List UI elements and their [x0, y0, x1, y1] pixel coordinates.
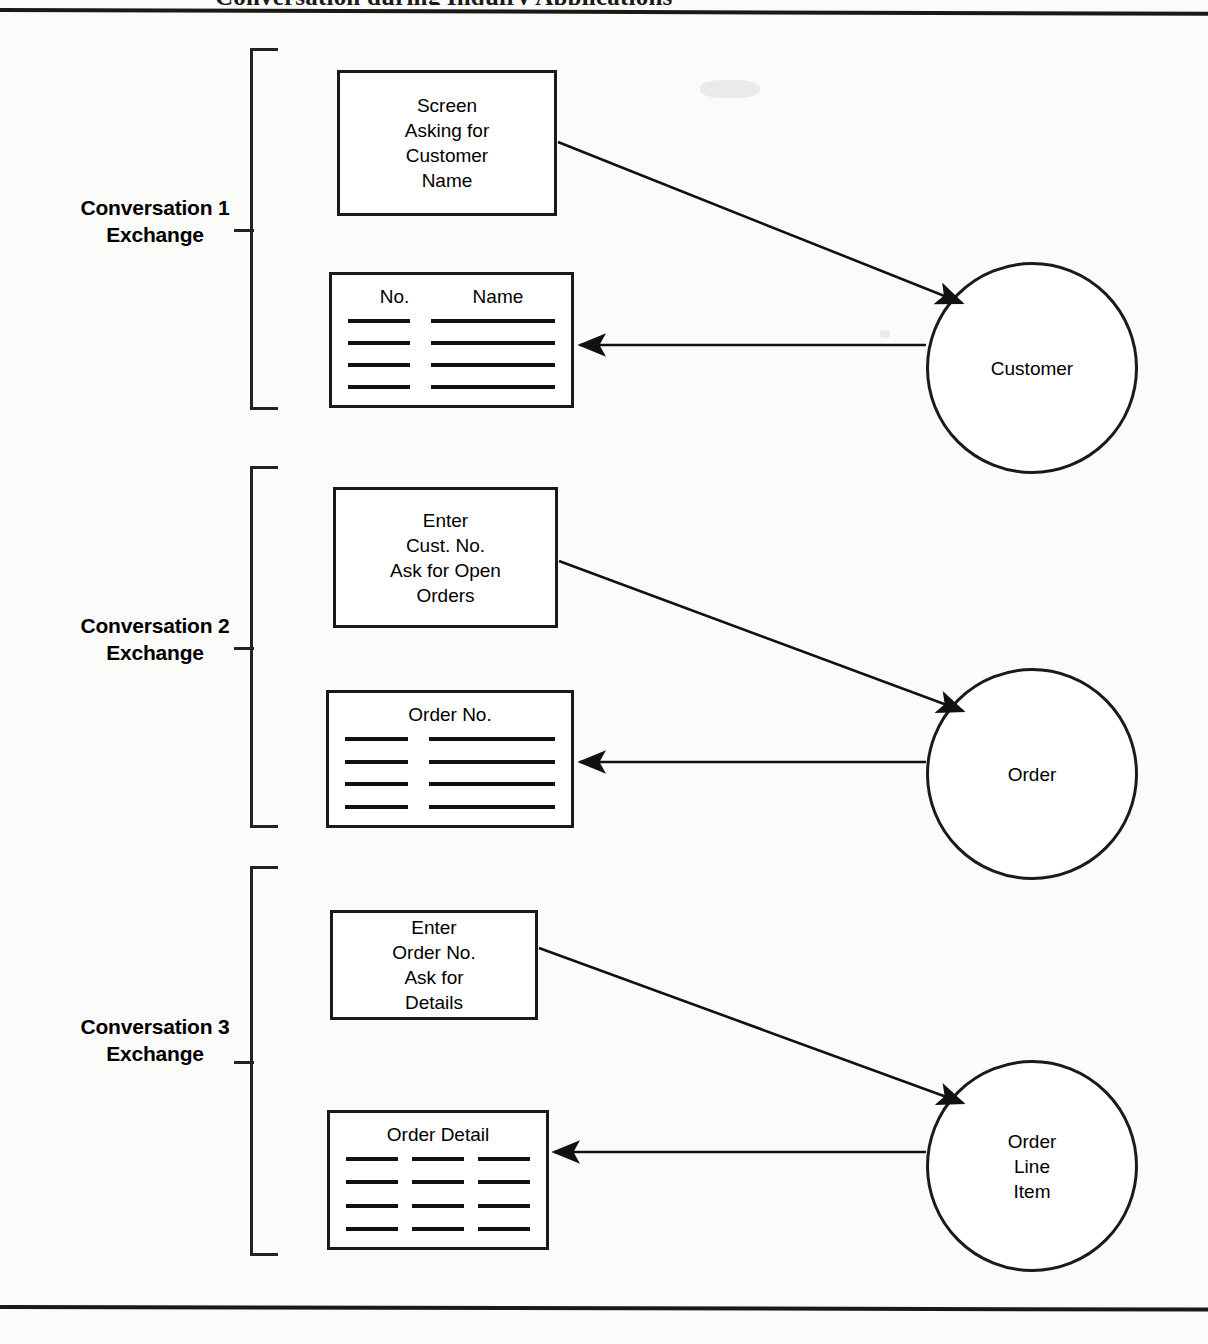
report-header-cell: Name — [473, 285, 524, 309]
report-header-cell: Order No. — [408, 703, 491, 727]
report-rows — [348, 319, 555, 393]
page-header-title: Conversation during Inquiry Applications — [215, 0, 1015, 5]
report-cell-rule — [345, 760, 408, 764]
scan-speckle — [700, 80, 760, 98]
report-cell-rule — [348, 363, 410, 367]
process-box-enter-order-no[interactable]: Enter Order No. Ask for Details — [330, 910, 538, 1020]
report-row — [346, 1157, 530, 1161]
report-box-order-no[interactable]: Order No. — [326, 690, 574, 828]
report-cell-rule — [346, 1180, 398, 1184]
report-cell-rule — [478, 1227, 530, 1231]
report-row — [348, 385, 555, 389]
report-cell-rule — [348, 319, 410, 323]
scan-speckle — [880, 330, 890, 338]
report-headers: No. Name — [348, 285, 555, 309]
report-cell-rule — [429, 760, 555, 764]
report-cell-rule — [346, 1157, 398, 1161]
group-label-line-2: Exchange — [45, 1040, 265, 1067]
report-box-customer-list[interactable]: No. Name — [329, 272, 574, 408]
report-row — [348, 319, 555, 323]
entity-circle-order[interactable]: Order — [926, 668, 1138, 880]
entity-label: Order Line Item — [1008, 1129, 1057, 1204]
report-cell-rule — [412, 1180, 464, 1184]
group-label-line-1: Conversation 3 — [45, 1013, 265, 1040]
report-cell-rule — [429, 805, 555, 809]
report-row — [345, 805, 555, 809]
report-cell-rule — [431, 319, 555, 323]
report-headers: Order No. — [345, 703, 555, 727]
report-cell-rule — [345, 782, 408, 786]
report-rows — [346, 1157, 530, 1235]
entity-circle-order-line-item[interactable]: Order Line Item — [926, 1060, 1138, 1272]
top-horizontal-rule — [0, 8, 1208, 16]
group-label-conversation-2: Conversation 2 Exchange — [45, 612, 265, 666]
report-header-cell: Order Detail — [387, 1123, 489, 1147]
report-cell-rule — [348, 385, 410, 389]
report-row — [348, 363, 555, 367]
group-label-line-1: Conversation 2 — [45, 612, 265, 639]
entity-label: Order — [1008, 762, 1057, 787]
report-cell-rule — [478, 1180, 530, 1184]
report-row — [345, 737, 555, 741]
report-cell-rule — [345, 737, 408, 741]
report-row — [345, 760, 555, 764]
report-cell-rule — [431, 341, 555, 345]
process-box-text: Screen Asking for Customer Name — [405, 93, 489, 193]
group-label-conversation-1: Conversation 1 Exchange — [45, 194, 265, 248]
report-header-cell: No. — [380, 285, 410, 309]
group-label-conversation-3: Conversation 3 Exchange — [45, 1013, 265, 1067]
report-cell-rule — [429, 782, 555, 786]
arrow-request-customer — [558, 142, 962, 303]
bottom-horizontal-rule — [0, 1305, 1208, 1312]
report-row — [348, 341, 555, 345]
report-cell-rule — [431, 385, 555, 389]
report-row — [346, 1180, 530, 1184]
report-cell-rule — [478, 1204, 530, 1208]
report-cell-rule — [346, 1204, 398, 1208]
process-box-enter-cust-no[interactable]: Enter Cust. No. Ask for Open Orders — [333, 487, 558, 628]
report-cell-rule — [431, 363, 555, 367]
process-box-text: Enter Order No. Ask for Details — [392, 915, 475, 1015]
report-cell-rule — [412, 1204, 464, 1208]
process-box-screen-asking-for-customer-name[interactable]: Screen Asking for Customer Name — [337, 70, 557, 216]
report-cell-rule — [478, 1157, 530, 1161]
diagram-page: Conversation during Inquiry Applications… — [0, 0, 1208, 1344]
report-cell-rule — [412, 1227, 464, 1231]
group-label-line-2: Exchange — [45, 221, 265, 248]
report-row — [346, 1227, 530, 1231]
report-cell-rule — [429, 737, 555, 741]
report-cell-rule — [345, 805, 408, 809]
entity-label: Customer — [991, 356, 1073, 381]
group-label-line-1: Conversation 1 — [45, 194, 265, 221]
process-box-text: Enter Cust. No. Ask for Open Orders — [390, 508, 501, 608]
report-rows — [345, 737, 555, 813]
group-label-line-2: Exchange — [45, 639, 265, 666]
report-cell-rule — [346, 1227, 398, 1231]
report-headers: Order Detail — [346, 1123, 530, 1147]
report-row — [346, 1204, 530, 1208]
report-cell-rule — [412, 1157, 464, 1161]
report-row — [345, 782, 555, 786]
arrow-request-order — [559, 561, 963, 711]
report-box-order-detail[interactable]: Order Detail — [327, 1110, 549, 1250]
entity-circle-customer[interactable]: Customer — [926, 262, 1138, 474]
arrow-request-order-line-item — [539, 948, 963, 1103]
report-cell-rule — [348, 341, 410, 345]
